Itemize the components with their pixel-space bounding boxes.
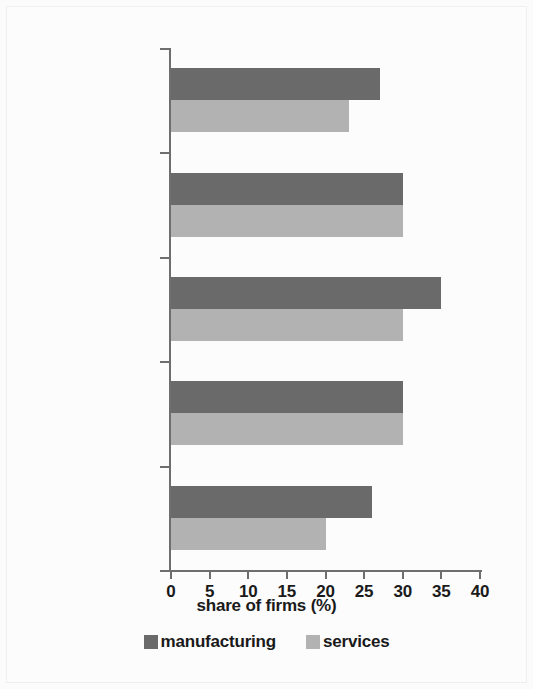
plot-area: 0510152025303540 too few locallytrained … xyxy=(171,48,480,570)
y-tick xyxy=(160,152,170,154)
x-tick xyxy=(325,570,327,579)
x-tick xyxy=(286,570,288,579)
chart-figure: 0510152025303540 too few locallytrained … xyxy=(0,0,533,689)
bar-group: low startingwages xyxy=(171,381,480,445)
bar-manufacturing xyxy=(171,68,380,100)
x-tick xyxy=(209,570,211,579)
bar-manufacturing xyxy=(171,381,403,413)
y-tick xyxy=(160,257,170,259)
x-tick xyxy=(247,570,249,579)
x-tick xyxy=(170,570,172,579)
legend-item: manufacturing xyxy=(144,632,276,652)
bar-services xyxy=(171,309,403,341)
legend-swatch-icon xyxy=(144,635,158,649)
x-tick xyxy=(402,570,404,579)
legend-swatch-icon xyxy=(306,635,320,649)
bar-group: jobturnover xyxy=(171,277,480,341)
y-tick xyxy=(160,466,170,468)
y-tick xyxy=(160,48,170,50)
x-tick xyxy=(363,570,365,579)
legend-label: manufacturing xyxy=(161,632,276,652)
x-tick xyxy=(440,570,442,579)
bar-manufacturing xyxy=(171,277,441,309)
bar-services xyxy=(171,518,326,550)
bar-manufacturing xyxy=(171,486,372,518)
x-axis-title: share of firms (%) xyxy=(0,596,533,616)
bar-group: emigration ofskilled workers xyxy=(171,486,480,550)
legend-item: services xyxy=(306,632,389,652)
bar-manufacturing xyxy=(171,173,403,205)
y-tick xyxy=(160,361,170,363)
x-tick xyxy=(479,570,481,579)
bar-services xyxy=(171,205,403,237)
y-tick xyxy=(160,570,170,572)
chart-legend: manufacturingservices xyxy=(0,632,533,652)
bar-services xyxy=(171,413,403,445)
bar-group: too few locallytrained students xyxy=(171,68,480,132)
bar-services xyxy=(171,100,349,132)
bar-group: low qualitylocal training xyxy=(171,173,480,237)
legend-label: services xyxy=(323,632,389,652)
